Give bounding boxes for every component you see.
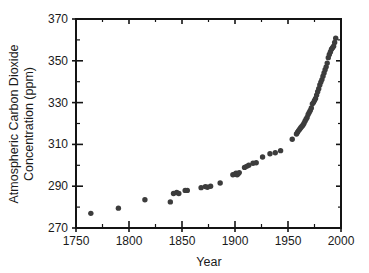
data-point [116, 205, 121, 210]
data-points [88, 36, 338, 217]
x-tick-label: 1900 [222, 234, 249, 248]
y-tick-label: 370 [48, 12, 68, 26]
x-axis-tick-labels: 175018001850190019502000 [63, 234, 355, 248]
x-tick-label: 1800 [116, 234, 143, 248]
data-point [333, 36, 338, 41]
y-tick-label: 310 [48, 137, 68, 151]
data-point [273, 150, 278, 155]
data-point [325, 60, 330, 65]
data-point [142, 197, 147, 202]
y-axis-tick-labels: 270290310330350370 [48, 12, 68, 235]
data-point [176, 191, 181, 196]
y-axis-title-line1: Atmospheric Carbon Dioxide [7, 44, 21, 203]
data-point [185, 188, 190, 193]
data-point [278, 148, 283, 153]
x-axis-title: Year [196, 255, 221, 269]
y-tick-label: 270 [48, 221, 68, 235]
chart-canvas: 175018001850190019502000 270290310330350… [0, 0, 369, 273]
data-point [237, 170, 242, 175]
y-tick-label: 330 [48, 96, 68, 110]
data-point [260, 154, 265, 159]
y-tick-label: 290 [48, 179, 68, 193]
x-tick-label: 1850 [169, 234, 196, 248]
data-point [168, 199, 173, 204]
data-point [290, 136, 295, 141]
data-point [254, 160, 259, 165]
x-tick-label: 1950 [275, 234, 302, 248]
y-tick-label: 350 [48, 54, 68, 68]
data-point [217, 180, 222, 185]
x-tick-label: 2000 [328, 234, 355, 248]
x-tick-label: 1750 [63, 234, 90, 248]
y-axis-ticks [72, 19, 341, 228]
data-point [267, 151, 272, 156]
co2-concentration-chart: 175018001850190019502000 270290310330350… [0, 0, 369, 273]
y-axis-title-line2: Concentration (ppm) [22, 67, 36, 181]
data-point [208, 184, 213, 189]
data-point [88, 211, 93, 216]
